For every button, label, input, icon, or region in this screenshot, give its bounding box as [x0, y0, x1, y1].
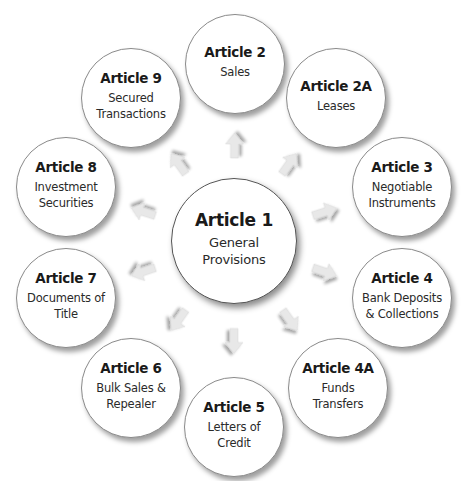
node-article-6: Article 6 Bulk Sales & Repealer — [81, 338, 181, 438]
arrow-icon-to-article-2 — [225, 133, 243, 158]
node-subtitle-line: Instruments — [368, 195, 435, 211]
node-subtitle-line: Securities — [34, 195, 97, 211]
center-node-article-1: Article 1 General Provisions — [171, 178, 297, 304]
node-title: Article 2 — [204, 44, 265, 60]
node-subtitle-line: Transfers — [313, 396, 363, 412]
node-subtitle-line: Negotiable — [368, 179, 435, 195]
uniform-commercial-code-diagram: Article 1 General Provisions Article 2 S… — [0, 0, 470, 481]
node-title: Article 2A — [300, 78, 372, 94]
node-title: Article 5 — [203, 399, 264, 415]
arrow-icon-to-article-2a — [275, 148, 304, 179]
node-article-2a: Article 2A Leases — [286, 48, 386, 148]
node-subtitle-line: Title — [27, 306, 105, 322]
node-title: Article 4A — [302, 360, 374, 376]
node-subtitle-line: Bank Deposits — [362, 290, 442, 306]
arrow-icon-to-article-9 — [164, 148, 193, 179]
arrow-icon-to-article-7 — [129, 259, 158, 284]
arrow-icon-to-article-3 — [310, 199, 339, 224]
arrow-icon-to-article-6 — [164, 305, 193, 336]
node-title: Article 9 — [100, 70, 161, 86]
node-article-7: Article 7 Documents of Title — [16, 248, 116, 348]
node-article-4a: Article 4A Funds Transfers — [288, 338, 388, 438]
node-title: Article 4 — [371, 270, 432, 286]
node-subtitle-line: Sales — [220, 64, 250, 80]
node-subtitle-line: Secured — [96, 90, 165, 106]
node-article-3: Article 3 Negotiable Instruments — [352, 137, 452, 237]
node-article-2: Article 2 Sales — [185, 14, 285, 114]
node-subtitle-line: Funds — [313, 380, 363, 396]
node-subtitle: Sales — [220, 64, 250, 80]
arrow-icon-to-article-4 — [310, 259, 339, 284]
node-subtitle: Negotiable Instruments — [368, 179, 435, 211]
arrow-icon-to-article-8 — [129, 199, 158, 224]
node-subtitle: Leases — [317, 98, 355, 114]
node-article-5: Article 5 Letters of Credit — [184, 377, 284, 477]
node-subtitle-line: Letters of — [208, 419, 261, 435]
arrow-icon-to-article-5 — [225, 329, 243, 354]
node-article-8: Article 8 Investment Securities — [16, 137, 116, 237]
node-subtitle: Letters of Credit — [208, 419, 261, 451]
node-title: Article 6 — [100, 360, 161, 376]
node-title: Article 8 — [35, 159, 96, 175]
node-subtitle: Investment Securities — [34, 179, 97, 211]
node-subtitle-line: & Collections — [362, 306, 442, 322]
node-subtitle: Bulk Sales & Repealer — [96, 380, 166, 412]
node-article-4: Article 4 Bank Deposits & Collections — [352, 248, 452, 348]
node-subtitle-line: General — [202, 234, 265, 251]
node-subtitle: Documents of Title — [27, 290, 105, 322]
node-subtitle-line: Leases — [317, 98, 355, 114]
node-subtitle-line: Provisions — [202, 251, 265, 268]
node-subtitle: General Provisions — [202, 234, 265, 268]
node-subtitle: Funds Transfers — [313, 380, 363, 412]
node-title: Article 1 — [195, 210, 273, 230]
node-subtitle-line: Documents of — [27, 290, 105, 306]
node-subtitle-line: Repealer — [96, 396, 166, 412]
node-subtitle-line: Transactions — [96, 106, 165, 122]
node-title: Article 7 — [35, 270, 96, 286]
node-subtitle-line: Bulk Sales & — [96, 380, 166, 396]
node-subtitle-line: Credit — [208, 435, 261, 451]
node-title: Article 3 — [371, 159, 432, 175]
node-subtitle: Secured Transactions — [96, 90, 165, 122]
node-subtitle: Bank Deposits & Collections — [362, 290, 442, 322]
arrow-icon-to-article-4a — [276, 305, 305, 336]
node-article-9: Article 9 Secured Transactions — [81, 48, 181, 148]
node-subtitle-line: Investment — [34, 179, 97, 195]
